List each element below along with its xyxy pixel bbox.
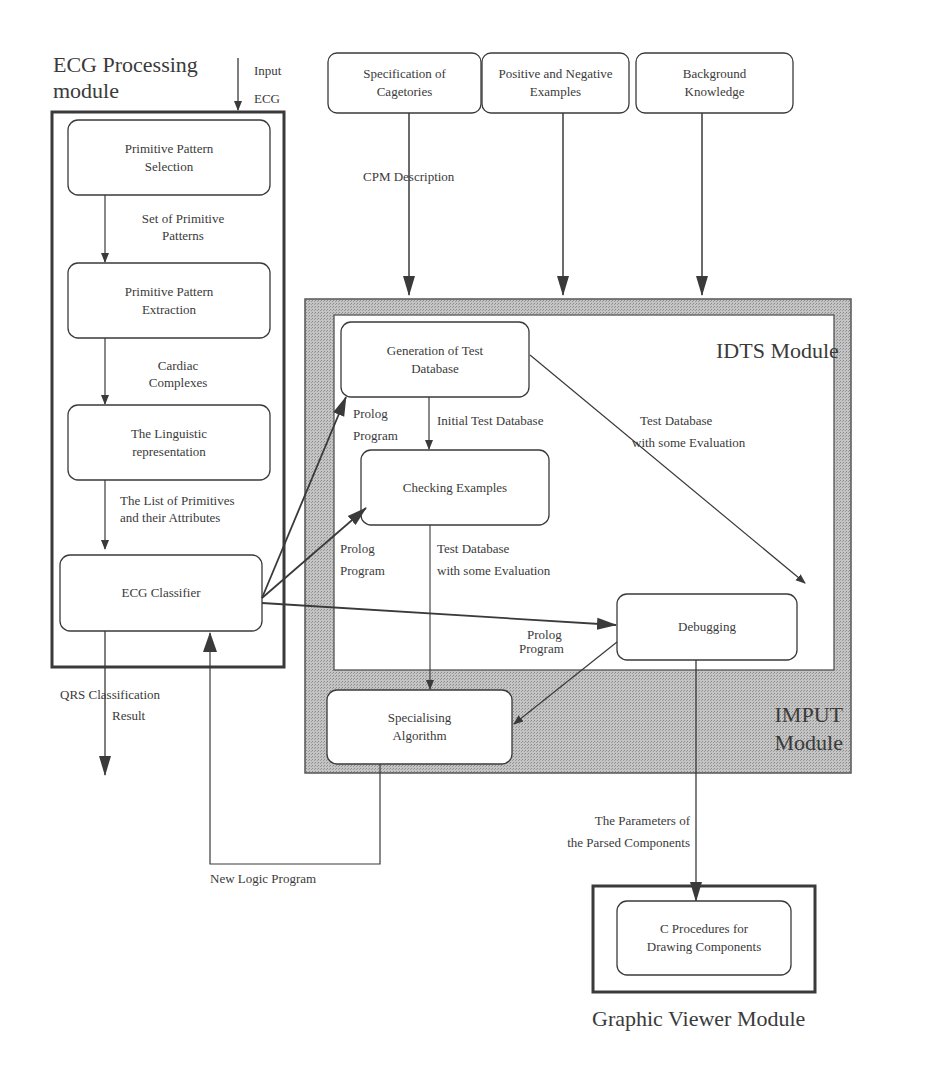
background-knowledge-text: Background Knowledge	[636, 53, 793, 113]
eval-right-label-2: with some Evaluation	[632, 434, 745, 451]
initial-db-label: Initial Test Database	[437, 412, 543, 429]
edge-line: Complexes	[128, 374, 228, 391]
prolog-a-label-1: Prolog	[353, 405, 388, 422]
input-label-1: Input	[254, 62, 281, 79]
box-line: Primitive Pattern	[125, 283, 213, 301]
box-line: Selection	[145, 158, 193, 176]
box-line: Algorithm	[392, 727, 446, 745]
c-procedures-text: C Procedures for Drawing Components	[617, 901, 791, 975]
edge-line: Cardiac	[128, 357, 228, 374]
prolog-b-label-2: Program	[340, 562, 385, 579]
cpm-label: CPM Description	[363, 168, 454, 185]
ecg-classifier-text: ECG Classifier	[60, 555, 262, 631]
new-logic-program-label: New Logic Program	[210, 870, 316, 887]
box-line: Database	[411, 360, 459, 378]
linguistic-text: The Linguistic representation	[68, 405, 270, 480]
eval-mid-label-2: with some Evaluation	[437, 562, 550, 579]
box-line: Drawing Components	[647, 938, 761, 956]
box-line: Cagetories	[377, 83, 433, 101]
prolog-b-label-1: Prolog	[340, 540, 375, 557]
prolog-c-label-2: Program	[519, 640, 564, 657]
box-line: Examples	[530, 83, 581, 101]
idts-module-title: IDTS Module	[716, 338, 839, 364]
qrs-label-2: Result	[112, 707, 145, 724]
edge-label-list-primitives: The List of Primitives and their Attribu…	[120, 492, 234, 526]
primitive-selection-text: Primitive Pattern Selection	[68, 120, 270, 195]
spec-categories-text: Specification of Cagetories	[328, 53, 481, 113]
box-line: representation	[132, 443, 206, 461]
prolog-a-label-2: Program	[353, 427, 398, 444]
ecg-module-title-2: module	[53, 78, 119, 104]
box-line: Specification of	[363, 65, 446, 83]
edge-label-cardiac: Cardiac Complexes	[128, 357, 228, 391]
qrs-label-1: QRS Classification	[60, 686, 160, 703]
box-line: Positive and Negative	[498, 65, 612, 83]
box-line: Specialising	[388, 709, 452, 727]
box-line: Background	[683, 65, 747, 83]
debugging-text: Debugging	[617, 594, 797, 660]
imput-module-title-2: Module	[727, 730, 843, 756]
box-line: Extraction	[142, 301, 196, 319]
box-line: C Procedures for	[660, 920, 748, 938]
input-label-2: ECG	[254, 90, 280, 107]
edge-line: Patterns	[118, 227, 248, 244]
edge-line: and their Attributes	[120, 509, 234, 526]
specialising-text: Specialising Algorithm	[327, 690, 512, 764]
eval-right-label-1: Test Database	[640, 412, 712, 429]
box-line: Knowledge	[685, 83, 745, 101]
generation-text: Generation of Test Database	[341, 322, 529, 397]
edge-line: Set of Primitive	[118, 210, 248, 227]
primitive-extraction-text: Primitive Pattern Extraction	[68, 263, 270, 338]
params-label-1: The Parameters of	[570, 812, 690, 829]
ecg-module-title-1: ECG Processing	[53, 52, 198, 78]
pos-neg-text: Positive and Negative Examples	[482, 53, 629, 113]
box-line: The Linguistic	[131, 425, 207, 443]
params-label-2: the Parsed Components	[520, 834, 690, 851]
imput-module-title-1: IMPUT	[727, 702, 843, 728]
box-line: Primitive Pattern	[125, 140, 213, 158]
checking-text: Checking Examples	[361, 450, 549, 525]
box-line: Generation of Test	[387, 342, 483, 360]
eval-mid-label-1: Test Database	[437, 540, 509, 557]
graphic-viewer-title: Graphic Viewer Module	[592, 1006, 805, 1032]
edge-label-set-primitive: Set of Primitive Patterns	[118, 210, 248, 244]
edge-line: The List of Primitives	[120, 492, 234, 509]
